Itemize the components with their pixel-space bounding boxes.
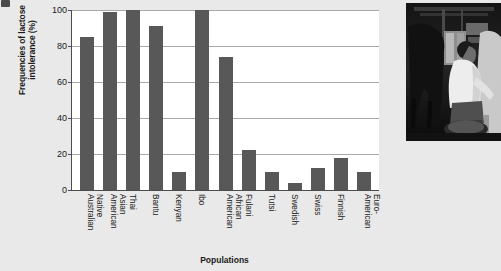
bar-bantu <box>149 26 163 190</box>
bar-swiss <box>311 168 325 190</box>
bar-ibo <box>195 10 209 190</box>
x-tick-label: Euro-American <box>363 194 381 229</box>
x-tick-label-line2: American <box>363 194 372 229</box>
x-axis-tick-labels: NativeAustralianAsianAmericanThaiBantuKe… <box>71 192 378 254</box>
x-label-slot: NativeAustralian <box>74 192 97 254</box>
bars-group <box>72 10 379 190</box>
y-tick-mark <box>68 190 72 191</box>
x-tick-label-line1: Bantu <box>151 194 160 215</box>
x-tick-label-line1: Thai <box>127 194 136 210</box>
bar-finnish <box>334 158 348 190</box>
x-tick-label-line2: Australian <box>86 194 95 230</box>
x-tick-label-line1: Tutsi <box>266 194 275 211</box>
x-tick-label-line2: American <box>109 194 118 229</box>
bar-african-american <box>219 57 233 190</box>
x-tick-label-line1: Swiss <box>313 194 322 215</box>
x-tick-label: Kenyan <box>174 194 183 222</box>
x-label-slot: AsianAmerican <box>97 192 120 254</box>
bar-slot <box>353 10 376 190</box>
bar-slot <box>75 10 98 190</box>
bar-slot <box>144 10 167 190</box>
x-tick-label: Thai <box>127 194 136 210</box>
bar-kenyan <box>172 172 186 190</box>
bar-slot <box>330 10 353 190</box>
x-label-slot: Bantu <box>143 192 166 254</box>
y-tick-label: 40 <box>57 113 67 123</box>
plot-area: 020406080100 <box>71 10 379 191</box>
bar-tutsi <box>265 172 279 190</box>
x-tick-label-line1: Fulani <box>243 194 252 216</box>
x-label-slot: Thai <box>120 192 143 254</box>
x-tick-label: Swiss <box>313 194 322 215</box>
x-label-slot: Euro-American <box>352 192 375 254</box>
milking-cow-photograph <box>406 3 501 141</box>
x-tick-label-line1: Euro- <box>372 194 381 214</box>
x-label-slot: Finnish <box>329 192 352 254</box>
bar-slot <box>98 10 121 190</box>
x-label-slot: Swiss <box>306 192 329 254</box>
bar-native-australian <box>80 37 94 190</box>
y-tick-label: 0 <box>62 185 67 195</box>
bar-slot <box>168 10 191 190</box>
y-tick-label: 60 <box>57 77 67 87</box>
bar-swedish <box>288 183 302 190</box>
bar-slot <box>214 10 237 190</box>
x-tick-label: Ibo <box>197 194 206 205</box>
x-tick-label-line2: American <box>225 194 234 229</box>
bar-fulani <box>242 150 256 190</box>
x-label-slot: Fulani <box>236 192 259 254</box>
x-tick-label-line1: Ibo <box>197 194 206 205</box>
x-label-slot: Tutsi <box>259 192 282 254</box>
x-tick-label: Tutsi <box>266 194 275 211</box>
x-axis-title: Populations <box>71 255 378 265</box>
bar-slot <box>121 10 144 190</box>
y-tick-label: 100 <box>52 5 67 15</box>
y-axis-title: Frequencies of lactose intolerance (%) <box>17 0 37 135</box>
y-axis-title-line1: Frequencies of lactose <box>17 5 27 95</box>
x-label-slot: Kenyan <box>167 192 190 254</box>
x-tick-label-line1: Kenyan <box>174 194 183 222</box>
bar-slot <box>260 10 283 190</box>
x-tick-label: Swedish <box>289 194 298 225</box>
x-tick-label-line1: Finnish <box>336 194 345 220</box>
bar-slot <box>283 10 306 190</box>
x-label-slot: Ibo <box>190 192 213 254</box>
bar-slot <box>237 10 260 190</box>
x-tick-label: Bantu <box>151 194 160 215</box>
lactose-intolerance-bar-chart: Frequencies of lactose intolerance (%) 0… <box>0 0 400 271</box>
y-axis-title-line2: intolerance (%) <box>27 20 37 79</box>
x-label-slot: Swedish <box>282 192 305 254</box>
x-tick-label: Finnish <box>336 194 345 220</box>
bar-asian-american <box>103 12 117 190</box>
x-tick-label: Fulani <box>243 194 252 216</box>
y-tick-label: 20 <box>57 149 67 159</box>
bar-slot <box>191 10 214 190</box>
bar-euro-american <box>357 172 371 190</box>
photo-illustration <box>406 3 501 141</box>
bar-slot <box>307 10 330 190</box>
bar-thai <box>126 10 140 190</box>
x-label-slot: AfricanAmerican <box>213 192 236 254</box>
y-tick-label: 80 <box>57 41 67 51</box>
x-tick-label-line1: Swedish <box>289 194 298 225</box>
